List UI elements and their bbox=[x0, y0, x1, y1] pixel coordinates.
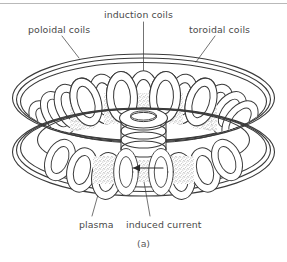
figure-caption: (a) bbox=[0, 238, 287, 249]
label-poloidal-coils: poloidal coils bbox=[28, 24, 90, 35]
label-plasma: plasma bbox=[79, 219, 114, 230]
leader-poloidal bbox=[62, 36, 79, 58]
label-induction-coils: induction coils bbox=[104, 9, 173, 20]
plasma-region-bottom bbox=[93, 156, 194, 184]
label-toroidal-coils: toroidal coils bbox=[189, 24, 250, 35]
label-induced-current: induced current bbox=[126, 219, 202, 230]
figure-panel: poloidal coils induction coils toroidal … bbox=[0, 0, 287, 262]
